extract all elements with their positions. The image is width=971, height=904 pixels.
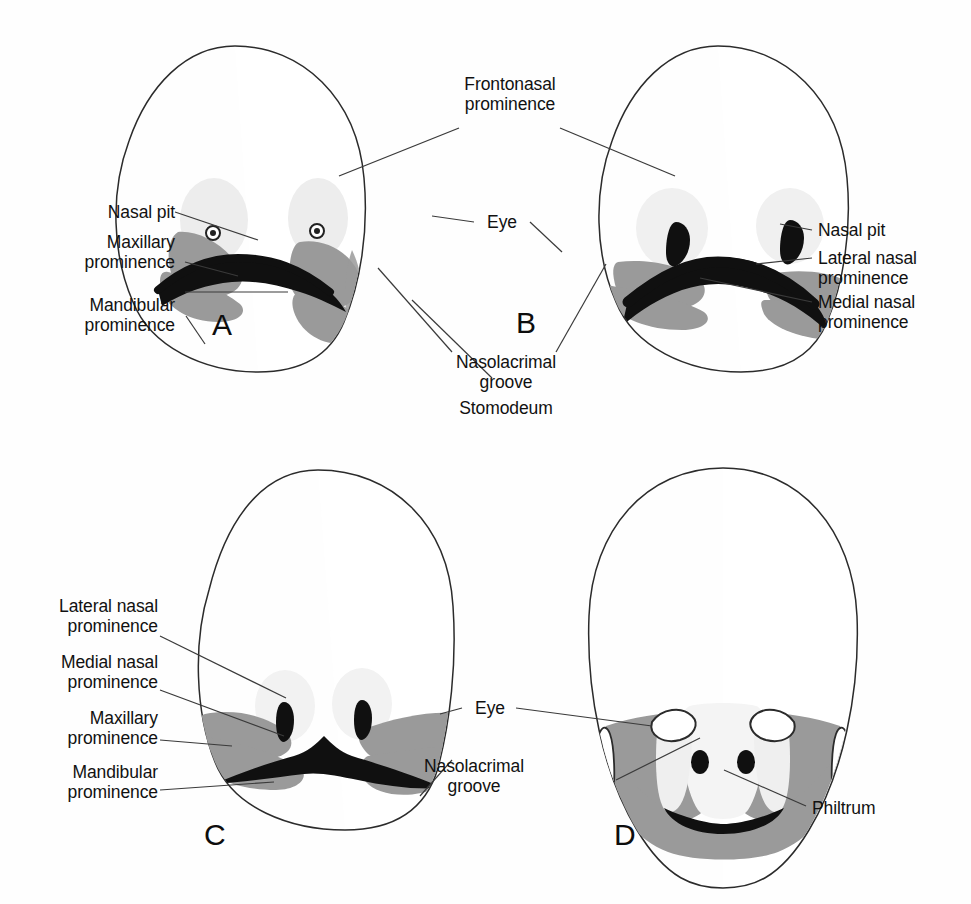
label-philtrum: Philtrum bbox=[812, 798, 942, 818]
label-nasolacrimal-groove-bottom: Nasolacrimal groove bbox=[396, 756, 552, 796]
label-eye-bottom: Eye bbox=[466, 698, 514, 718]
panel-letter-a: A bbox=[212, 310, 232, 340]
panel-letter-d: D bbox=[614, 820, 636, 850]
label-stomodeum: Stomodeum bbox=[428, 398, 584, 418]
label-frontonasal-prominence: Frontonasal prominence bbox=[440, 74, 580, 114]
panel-letter-b: B bbox=[516, 308, 536, 338]
label-mandibular-prominence-a: Mandibular prominence bbox=[0, 295, 175, 335]
label-maxillary-prominence-a: Maxillary prominence bbox=[0, 232, 175, 272]
label-maxillary-prominence-c: Maxillary prominence bbox=[0, 708, 158, 748]
facial-development-figure: Frontonasal prominence Nasal pit Maxilla… bbox=[0, 0, 971, 904]
label-nasal-pit-a: Nasal pit bbox=[0, 202, 175, 222]
label-eye-top: Eye bbox=[478, 212, 526, 232]
label-medial-nasal-prominence-b: Medial nasal prominence bbox=[818, 292, 971, 332]
label-mandibular-prominence-c: Mandibular prominence bbox=[0, 762, 158, 802]
label-lateral-nasal-prominence-c: Lateral nasal prominence bbox=[0, 596, 158, 636]
panel-letter-c: C bbox=[204, 820, 226, 850]
label-medial-nasal-prominence-c: Medial nasal prominence bbox=[0, 652, 158, 692]
label-lateral-nasal-prominence-b: Lateral nasal prominence bbox=[818, 248, 971, 288]
label-nasolacrimal-groove-top: Nasolacrimal groove bbox=[428, 352, 584, 392]
label-nasal-pit-b: Nasal pit bbox=[818, 220, 971, 240]
